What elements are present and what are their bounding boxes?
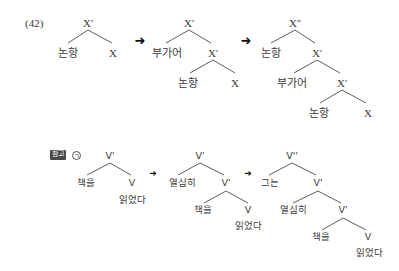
node-mid-left: 책을 (194, 205, 212, 215)
node-mid-left: 부가어 (277, 78, 307, 89)
node-mid-left: 논항 (178, 78, 198, 89)
node-right: V (129, 178, 136, 188)
node-mid: V' (221, 178, 230, 188)
node-low-left: 책을 (312, 232, 330, 242)
node-root: V' (195, 151, 204, 161)
node-mid: X' (208, 48, 218, 59)
node-right: X (109, 48, 117, 59)
node-low-left: 논항 (309, 108, 329, 119)
node-root: V'' (286, 151, 298, 161)
node-mid2: V' (338, 205, 347, 215)
reference-badge: 참고 (50, 150, 66, 160)
node-low-right: X (364, 108, 372, 119)
node-mid: X' (312, 48, 322, 59)
node-left: 그는 (261, 178, 279, 188)
node-verb: 읽었다 (356, 248, 383, 258)
node-left: 논항 (261, 48, 281, 59)
example-number: (42) (25, 17, 43, 29)
node-low-right: V (365, 232, 372, 242)
node-mid2: X' (337, 78, 347, 89)
node-mid-left: 열심히 (280, 205, 307, 215)
node-left: 책을 (77, 178, 95, 188)
node-mid: V' (313, 178, 322, 188)
tree-branches (0, 0, 399, 271)
circled-marker: ㄱ (72, 151, 81, 160)
node-root: X' (184, 18, 194, 29)
node-root: X'' (289, 18, 301, 29)
node-mid-right: V (245, 205, 252, 215)
arrow-icon: ➜ (244, 168, 252, 178)
arrow-icon: ➜ (135, 33, 146, 48)
node-verb: 읽었다 (119, 195, 146, 205)
arrow-icon: ➜ (241, 33, 252, 48)
arrow-icon: ➜ (149, 168, 157, 178)
node-left: 부가어 (152, 48, 182, 59)
node-root: X' (83, 18, 93, 29)
node-mid-right: X (231, 78, 239, 89)
node-left: 열심히 (169, 178, 196, 188)
node-left: 논항 (58, 48, 78, 59)
node-verb: 읽었다 (235, 221, 262, 231)
node-root: V' (105, 151, 114, 161)
